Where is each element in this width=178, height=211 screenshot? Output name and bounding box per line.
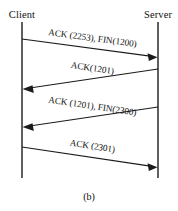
message-4-arrowhead: [148, 163, 158, 171]
sequence-diagram: Client Server ACK (2253), FIN(1200) ACK(…: [0, 0, 178, 211]
actor-label-client: Client: [9, 9, 35, 20]
sequence-diagram-canvas: Client Server ACK (2253), FIN(1200) ACK(…: [0, 0, 178, 211]
message-3-label: ACK (1201), FIN(2300): [48, 95, 138, 118]
message-3-arrowhead: [23, 123, 34, 131]
actor-label-server: Server: [144, 9, 172, 20]
figure-caption: (b): [83, 191, 95, 203]
message-2-arrowhead: [23, 85, 34, 93]
message-2-label: ACK(1201): [70, 60, 114, 76]
message-1: ACK (2253), FIN(1200): [22, 27, 158, 61]
message-4: ACK (2301): [22, 138, 158, 171]
message-2: ACK(1201): [23, 60, 159, 93]
message-4-label: ACK (2301): [69, 138, 116, 155]
message-3: ACK (1201), FIN(2300): [23, 95, 159, 132]
message-1-arrowhead: [148, 53, 158, 61]
message-1-label: ACK (2253), FIN(1200): [48, 27, 138, 49]
